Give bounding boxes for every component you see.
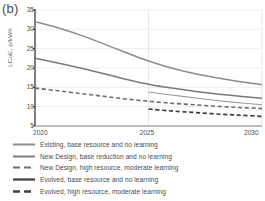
legend-item: Existing, base resource and no learning [13,139,263,151]
legend-line-icon [13,164,35,171]
legend-item: Evolved, base resource and no learning [13,174,263,186]
figure-panel-b: (b) LCoE, p/kWh 3530252015105 2020202520… [0,0,265,201]
legend-item-label: Evolved, high resource, moderate learnin… [40,188,166,195]
x-axis-tick-label: 2025 [140,130,155,137]
legend-item: New Design, base reduction and no learni… [13,151,263,163]
legend-line-icon [13,188,35,195]
legend-item-label: Evolved, base resource and no learning [40,176,158,183]
legend-item: New Design, high resource, moderate lear… [13,162,263,174]
series-line [149,109,263,116]
x-axis-tick-label: 2020 [33,130,48,137]
legend-item-label: New Design, high resource, moderate lear… [40,164,178,171]
legend-line-icon [13,141,35,148]
legend-line-icon [13,176,35,183]
chart-legend: Existing, base resource and no learningN… [13,139,263,197]
x-axis-tick-label: 2030 [244,130,259,137]
legend-line-icon [13,153,35,160]
legend-item: Evolved, high resource, moderate learnin… [13,185,263,197]
legend-item-label: New Design, base reduction and no learni… [40,153,172,160]
legend-item-label: Existing, base resource and no learning [40,141,158,148]
